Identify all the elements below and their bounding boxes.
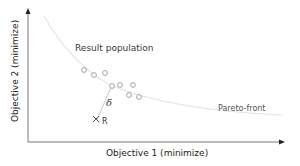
population-point <box>137 95 142 100</box>
pareto-front-label: Pareto-front <box>218 104 266 113</box>
population-point <box>131 83 136 88</box>
population-point <box>103 71 108 76</box>
population-point <box>118 83 123 88</box>
population-point <box>82 68 87 73</box>
population-point <box>110 84 115 89</box>
population-point <box>92 73 97 78</box>
distance-delta-label: δ <box>106 97 112 108</box>
y-axis-label: Objective 2 (minimize) <box>10 20 20 122</box>
diagram-canvas <box>0 0 300 166</box>
x-axis-arrow-icon <box>279 140 285 145</box>
reference-point-label: R <box>102 117 108 126</box>
population-label: Result population <box>75 43 154 53</box>
reference-point-marker <box>93 116 99 122</box>
y-axis-arrow-icon <box>26 8 31 14</box>
population-point <box>127 93 132 98</box>
x-axis-label: Objective 1 (minimize) <box>106 148 208 158</box>
pareto-front-curve <box>44 16 282 115</box>
